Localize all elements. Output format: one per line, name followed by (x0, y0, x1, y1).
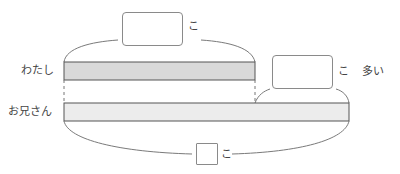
row-label-oniisan: お兄さん (8, 106, 52, 117)
difference-suffix: 多い (362, 66, 384, 77)
difference-brace (336, 89, 349, 103)
top-answer-unit: こ (188, 21, 199, 32)
row-label-watashi: わたし (21, 65, 54, 76)
difference-answer-box[interactable] (272, 55, 333, 89)
watashi-bar (64, 62, 255, 80)
total-answer-box[interactable] (196, 143, 218, 165)
bottom-brace (64, 121, 192, 154)
oniisan-bar (64, 103, 349, 121)
difference-answer-unit: こ (338, 66, 349, 77)
total-answer-unit: こ (221, 149, 232, 160)
top-brace (64, 40, 118, 62)
difference-brace (255, 89, 270, 103)
bottom-brace (232, 121, 349, 154)
top-brace (201, 40, 255, 62)
top-answer-box[interactable] (122, 12, 183, 46)
